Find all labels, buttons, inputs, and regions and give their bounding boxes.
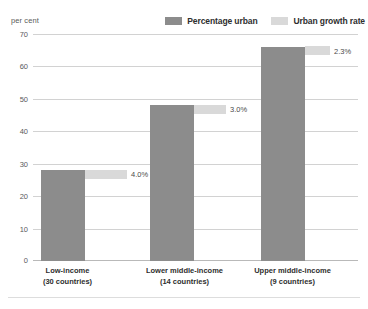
y-tick-label: 0 [24, 256, 28, 265]
y-tick-label: 30 [20, 159, 28, 168]
bar-percentage-urban[interactable] [41, 170, 85, 261]
bar-urban-growth-rate[interactable] [194, 105, 226, 114]
legend-entry-percentage-urban: Percentage urban [165, 16, 257, 26]
x-axis-label-upper-middle-income: Upper middle-income (9 countries) [217, 266, 368, 287]
bar-group-lower-middle-income: 3.0% [150, 34, 194, 261]
bar-urban-growth-rate[interactable] [305, 46, 330, 55]
bar-urban-growth-rate[interactable] [85, 170, 127, 179]
x-axis-label-count: (9 countries) [217, 277, 368, 288]
y-axis-title: per cent [11, 16, 39, 25]
data-label-urban-growth-rate: 2.3% [334, 46, 351, 55]
y-tick-label: 10 [20, 224, 28, 233]
legend-swatch-icon [165, 17, 182, 25]
x-axis-label-name: Low-income [46, 266, 90, 275]
legend-entry-urban-growth-rate: Urban growth rate [271, 16, 365, 26]
y-tick-label: 70 [20, 30, 28, 39]
legend-label: Urban growth rate [293, 16, 365, 26]
bar-group-low-income: 4.0% [41, 34, 85, 261]
x-axis-label-name: Lower middle-income [146, 266, 223, 275]
y-tick-label: 60 [20, 62, 28, 71]
y-tick-label: 20 [20, 192, 28, 201]
x-axis-label-name: Upper middle-income [254, 266, 331, 275]
y-tick-label: 40 [20, 127, 28, 136]
chart-legend: Percentage urban Urban growth rate [170, 14, 365, 27]
bar-group-upper-middle-income: 2.3% [261, 34, 305, 261]
legend-label: Percentage urban [187, 16, 257, 26]
legend-swatch-icon [271, 17, 288, 25]
plot-area: 70 60 50 40 30 20 10 0 4.0% [33, 34, 358, 261]
data-label-urban-growth-rate: 4.0% [131, 170, 148, 179]
bar-percentage-urban[interactable] [261, 47, 305, 261]
data-label-urban-growth-rate: 3.0% [230, 105, 247, 114]
chart-figure: Percentage urban Urban growth rate per c… [0, 0, 368, 309]
bar-percentage-urban[interactable] [150, 105, 194, 261]
y-tick-label: 50 [20, 94, 28, 103]
footer-divider [8, 297, 360, 298]
